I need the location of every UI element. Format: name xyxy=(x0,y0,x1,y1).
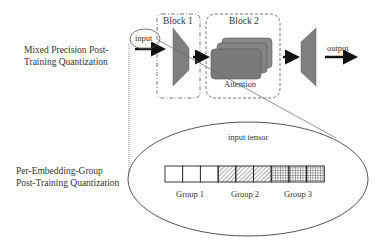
group1-label: Group 1 xyxy=(176,189,204,199)
input-label: input xyxy=(135,33,152,43)
attention-label: Attention xyxy=(224,79,256,89)
mixed-precision-label: Mixed Precision Post- Training Quantizat… xyxy=(24,44,108,68)
tensor-cells xyxy=(165,166,324,182)
output-label: output xyxy=(327,43,349,53)
diagram-canvas xyxy=(0,0,388,246)
block1-label: Block 1 xyxy=(163,16,193,26)
block1-trapezoid xyxy=(173,28,189,86)
attention-layer-front xyxy=(211,49,261,79)
per-embedding-label: Per-Embedding-Group Post-Training Quanti… xyxy=(16,165,119,189)
group3-label: Group 3 xyxy=(284,189,312,199)
input-tensor-label: input tensor xyxy=(228,132,268,142)
block2-label: Block 2 xyxy=(229,16,259,26)
output-trapezoid xyxy=(301,28,316,86)
group2-label: Group 2 xyxy=(231,189,259,199)
